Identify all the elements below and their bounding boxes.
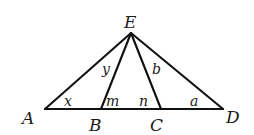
angle-label-y: y — [101, 61, 111, 77]
point-label-E: E — [123, 12, 137, 32]
angle-label-x: x — [64, 93, 72, 109]
point-label-B: B — [88, 115, 102, 135]
angle-label-b: b — [152, 61, 161, 77]
figure-svg: E A B C D x y m n b a — [0, 0, 254, 135]
angle-label-m: m — [106, 93, 119, 109]
angle-label-a: a — [190, 93, 198, 109]
point-label-C: C — [150, 115, 163, 135]
point-label-A: A — [20, 108, 34, 128]
angle-label-n: n — [139, 93, 148, 109]
point-label-D: D — [225, 107, 240, 127]
geometry-figure: E A B C D x y m n b a — [0, 0, 254, 135]
